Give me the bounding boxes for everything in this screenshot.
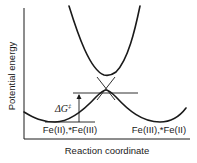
y-axis-title: Potential energy: [6, 41, 17, 110]
potential-energy-diagram: ΔG‡ Fe(II),*Fe(III) Fe(III),*Fe(II) Reac…: [0, 0, 197, 163]
right-well-label: Fe(III),*Fe(II): [132, 124, 186, 135]
upper-energy-curve: [69, 6, 140, 75]
activation-energy-label: ΔG‡: [54, 102, 72, 114]
double-dagger-superscript: ‡: [68, 102, 72, 109]
left-well-label: Fe(II),*Fe(III): [43, 124, 97, 135]
lower-energy-curve: [24, 90, 186, 122]
x-axis-title: Reaction coordinate: [65, 145, 150, 156]
activation-arrow-head: [77, 94, 82, 99]
